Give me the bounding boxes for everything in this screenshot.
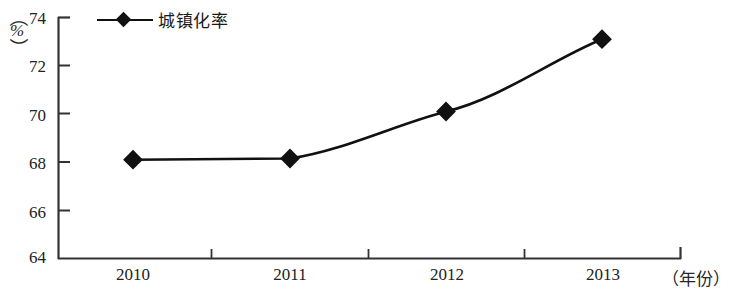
data-point-2011 (280, 149, 300, 169)
data-point-2010 (123, 150, 143, 170)
data-point-2013 (592, 29, 612, 49)
line-chart: （ % ） 城镇化率 74 72 70 68 66 64 2010 2011 2… (0, 0, 736, 294)
plot-area (0, 0, 736, 294)
data-point-2012 (436, 102, 456, 122)
series-markers (123, 29, 612, 169)
series-line-urbanization-rate (133, 39, 602, 160)
